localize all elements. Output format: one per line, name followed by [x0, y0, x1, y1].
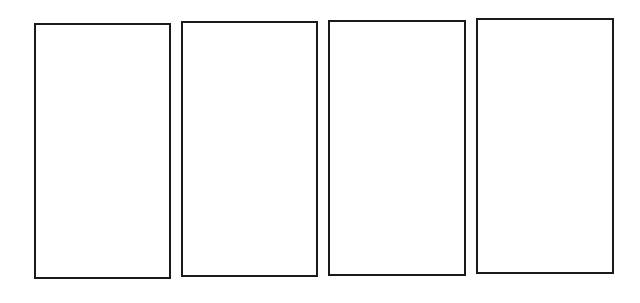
panel-2	[181, 21, 318, 277]
panel-4	[476, 18, 614, 274]
panel-3	[328, 20, 466, 276]
panel-1	[34, 23, 171, 279]
